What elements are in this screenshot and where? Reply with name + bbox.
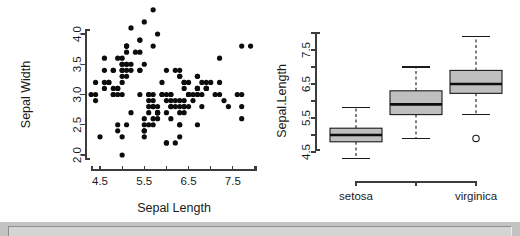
scatter-x-tick-label: 7.5 xyxy=(225,175,241,187)
scatter-y-tick-label: 3.0 xyxy=(71,87,83,103)
scatter-point xyxy=(106,80,111,85)
scatter-point xyxy=(151,104,156,109)
scatter-point xyxy=(168,98,173,103)
scatter-x-tick-label: 5.5 xyxy=(136,175,152,187)
scatter-point xyxy=(120,74,125,79)
scatter-point xyxy=(151,44,156,49)
boxplot-box-group xyxy=(390,67,442,138)
scatter-point xyxy=(137,68,142,73)
boxplot-category-label: virginica xyxy=(455,190,498,202)
scatter-point xyxy=(128,110,133,115)
scatter-point xyxy=(146,92,151,97)
scatter-point xyxy=(142,122,147,127)
scatter-point xyxy=(137,37,142,42)
scatter-points xyxy=(89,7,254,157)
scatter-point xyxy=(173,140,178,145)
scatter-x-tick-label: 6.5 xyxy=(181,175,197,187)
scatter-point xyxy=(124,62,129,67)
scatter-point xyxy=(168,116,173,121)
scatter-point xyxy=(213,92,218,97)
scatter-point xyxy=(186,92,191,97)
scatter-point xyxy=(177,110,182,115)
scatter-point xyxy=(217,80,222,85)
scatter-point xyxy=(151,92,156,97)
boxplot-box-group xyxy=(450,36,502,141)
scatter-point xyxy=(164,110,169,115)
scatter-point xyxy=(199,80,204,85)
scatter-point xyxy=(124,50,129,55)
scatter-point xyxy=(173,104,178,109)
scatter-point xyxy=(146,104,151,109)
scatter-point xyxy=(151,7,156,12)
scatter-point xyxy=(199,104,204,109)
scatter-point xyxy=(155,31,160,36)
scatter-point xyxy=(102,68,107,73)
scatter-point xyxy=(124,68,129,73)
scatter-point xyxy=(151,98,156,103)
boxplot-y-tick-label: 5.5 xyxy=(300,110,312,126)
boxplot-y-tick-label: 4.5 xyxy=(300,144,312,160)
scatter-point xyxy=(120,56,125,61)
scatter-y-tick-label: 4.0 xyxy=(71,26,83,42)
scatter-point xyxy=(146,122,151,127)
scatter-point xyxy=(146,110,151,115)
scatter-point xyxy=(97,134,102,139)
scatter-point xyxy=(195,92,200,97)
scatter-point xyxy=(137,50,142,55)
scatter-point xyxy=(190,92,195,97)
scatter-point xyxy=(120,68,125,73)
scatter-point xyxy=(102,86,107,91)
scatter-point xyxy=(182,80,187,85)
scatter-point xyxy=(239,92,244,97)
scatter-point xyxy=(177,134,182,139)
scatter-y-tick-label: 2.5 xyxy=(71,117,83,133)
scatter-point xyxy=(204,86,209,91)
scatter-point xyxy=(120,80,125,85)
scatter-point xyxy=(155,116,160,121)
scatter-point xyxy=(155,110,160,115)
scatter-point xyxy=(137,92,142,97)
scatter-point xyxy=(142,19,147,24)
boxplot-y-tick-label: 6.5 xyxy=(300,76,312,92)
scatter-point xyxy=(190,98,195,103)
scatter-point xyxy=(128,25,133,30)
scatter-point xyxy=(168,92,173,97)
scatter-point xyxy=(177,68,182,73)
scatter-point xyxy=(221,98,226,103)
scatter-point xyxy=(93,98,98,103)
scatter-point xyxy=(177,74,182,79)
scatter-point xyxy=(177,104,182,109)
scatter-x-axis-title: Sepal Length xyxy=(137,201,211,215)
scatter-point xyxy=(120,152,125,157)
scatter-point xyxy=(159,80,164,85)
scatter-point xyxy=(120,92,125,97)
scatter-point xyxy=(208,80,213,85)
scatter-point xyxy=(168,104,173,109)
scatter-point xyxy=(124,122,129,127)
scatter-point xyxy=(226,104,231,109)
boxplot-svg: 4.55.56.57.5Sepal.Lengthsetosavirginica xyxy=(268,0,520,224)
scatter-point xyxy=(239,104,244,109)
scatter-point xyxy=(173,98,178,103)
scatter-point xyxy=(164,92,169,97)
scatter-point xyxy=(120,62,125,67)
scatter-point xyxy=(173,68,178,73)
scatter-point xyxy=(142,128,147,133)
scatter-point xyxy=(195,74,200,79)
scatter-point xyxy=(133,50,138,55)
scatter-y-tick-label: 2.0 xyxy=(71,147,83,163)
scatter-point xyxy=(142,116,147,121)
scatter-point xyxy=(217,92,222,97)
scatter-point xyxy=(235,92,240,97)
scatter-point xyxy=(142,134,147,139)
window-bottom-chrome-inset xyxy=(8,226,512,236)
scatter-y-tick-label: 3.5 xyxy=(71,56,83,72)
scatter-point xyxy=(115,128,120,133)
plot-screenshot: 2.02.53.03.54.04.55.56.57.5Sepal LengthS… xyxy=(0,0,520,236)
boxplot-y-axis-title: Sepal.Length xyxy=(275,64,289,138)
boxplot-outlier xyxy=(473,135,479,141)
scatter-point xyxy=(177,122,182,127)
boxplot-y-tick-label: 7.5 xyxy=(300,42,312,58)
boxplot-category-label: setosa xyxy=(339,190,373,202)
scatter-point xyxy=(115,86,120,91)
